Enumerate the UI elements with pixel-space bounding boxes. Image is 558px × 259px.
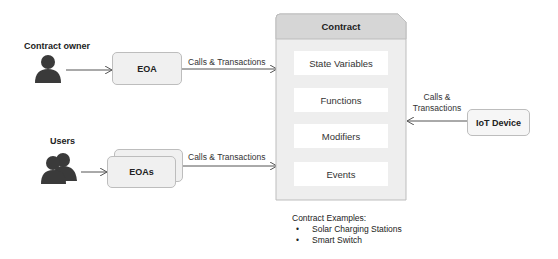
- example-item: Smart Switch: [306, 235, 402, 246]
- section-label: State Variables: [309, 58, 373, 69]
- section-modifiers: Modifiers: [294, 124, 388, 148]
- contract-examples: Contract Examples: Solar Charging Statio…: [292, 213, 402, 246]
- contract-title: Contract: [276, 14, 406, 39]
- users-edge-label: Calls & Transactions: [188, 152, 265, 162]
- eoa-label: EOA: [137, 64, 157, 74]
- section-label: Events: [326, 169, 355, 180]
- examples-list: Solar Charging Stations Smart Switch: [292, 224, 402, 246]
- example-item: Solar Charging Stations: [306, 224, 402, 235]
- section-label: Modifiers: [322, 131, 361, 142]
- section-label: Functions: [320, 95, 361, 106]
- eoa-box: EOA: [112, 52, 182, 85]
- owner-edge-label: Calls & Transactions: [188, 57, 265, 67]
- examples-heading: Contract Examples:: [292, 213, 402, 224]
- users-icon: [41, 153, 77, 184]
- users-label: Users: [50, 136, 75, 146]
- section-state-variables: State Variables: [294, 51, 388, 75]
- contract-owner-label: Contract owner: [24, 41, 90, 51]
- iot-device-label: IoT Device: [476, 118, 521, 128]
- eoas-box: EOAs: [107, 156, 176, 188]
- iot-edge-label-line1: Calls &: [412, 92, 462, 102]
- section-events: Events: [294, 162, 388, 186]
- person-icon: [35, 55, 61, 83]
- iot-edge-label-line2: Transactions: [406, 103, 468, 113]
- section-functions: Functions: [294, 88, 388, 112]
- eoas-label: EOAs: [129, 167, 154, 177]
- iot-device-box: IoT Device: [467, 109, 530, 136]
